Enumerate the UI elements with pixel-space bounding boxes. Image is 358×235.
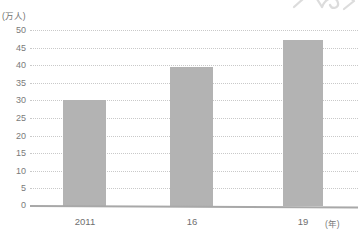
bar-2011 <box>63 100 106 206</box>
bar-chart: (万人) 50 45 40 35 30 25 20 15 10 5 0 2011… <box>0 0 358 235</box>
gridline-50 <box>30 30 358 31</box>
bar-16 <box>170 67 213 206</box>
y-tick-15: 15 <box>2 149 26 158</box>
bar-19 <box>283 40 323 207</box>
x-tick-label-16: 16 <box>171 216 213 227</box>
plot-area: 50 45 40 35 30 25 20 15 10 5 0 2011 16 1… <box>0 0 358 235</box>
y-tick-25: 25 <box>2 114 26 123</box>
x-tick-label-19: 19 <box>283 216 323 227</box>
y-tick-20: 20 <box>2 132 26 141</box>
y-tick-0: 0 <box>2 201 26 210</box>
y-tick-40: 40 <box>2 61 26 70</box>
x-axis-unit-label: (年) <box>325 217 340 229</box>
y-tick-45: 45 <box>2 44 26 53</box>
y-tick-5: 5 <box>2 184 26 193</box>
y-tick-35: 35 <box>2 79 26 88</box>
y-tick-50: 50 <box>2 26 26 35</box>
x-axis-line <box>30 205 358 209</box>
x-tick-label-2011: 2011 <box>64 216 106 227</box>
y-tick-10: 10 <box>2 167 26 176</box>
y-tick-30: 30 <box>2 96 26 105</box>
